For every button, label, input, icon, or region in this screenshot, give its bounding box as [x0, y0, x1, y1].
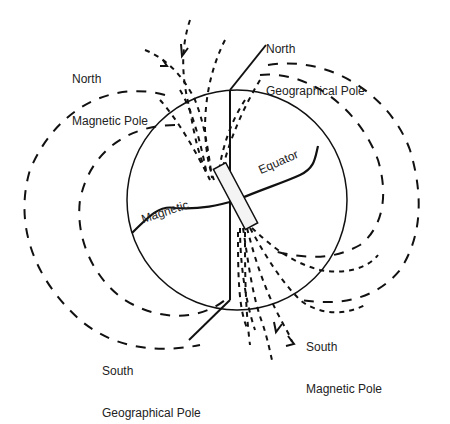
bar-magnet [213, 163, 257, 230]
label-line: North [266, 42, 365, 56]
field-lines-north-cluster [145, 20, 260, 180]
label-north-geographical-pole: North Geographical Pole [266, 14, 365, 112]
label-line: Magnetic Pole [72, 114, 148, 128]
label-line: Geographical Pole [266, 84, 365, 98]
label-line: South [102, 364, 201, 378]
label-line: Geographical Pole [102, 406, 201, 420]
label-south-magnetic-pole: South Magnetic Pole [306, 312, 382, 410]
label-line: South [306, 340, 382, 354]
label-line: Magnetic Pole [306, 382, 382, 396]
label-north-magnetic-pole: North Magnetic Pole [72, 44, 148, 142]
label-line: North [72, 72, 148, 86]
label-south-geographical-pole: South Geographical Pole [102, 336, 201, 424]
